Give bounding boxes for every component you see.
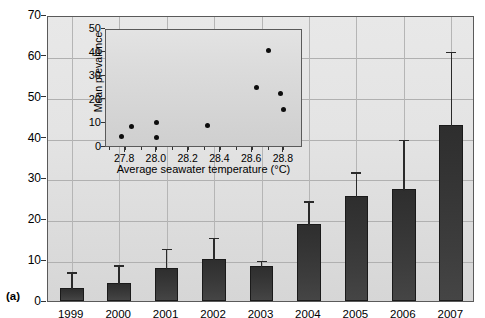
inset-y-tick-label: 10 <box>79 116 101 128</box>
vertical-gridline <box>72 17 73 301</box>
error-bar-cap <box>304 201 314 203</box>
error-bar-cap <box>446 52 456 54</box>
scatter-point <box>129 124 134 129</box>
inset-x-minor-tick-mark <box>283 147 284 150</box>
scatter-point <box>278 91 283 96</box>
scatter-point <box>154 135 159 140</box>
x-tick-label: 2005 <box>331 308 379 318</box>
bar <box>297 224 321 301</box>
inset-x-minor-tick-mark <box>125 147 126 150</box>
bar <box>392 189 416 301</box>
x-tick-label: 2001 <box>142 308 190 318</box>
gridline <box>48 180 473 181</box>
bar <box>250 266 274 302</box>
x-tick-label: 2003 <box>237 308 285 318</box>
error-bar-cap <box>162 249 172 251</box>
error-bar-cap <box>257 261 267 263</box>
inset-x-axis-label: Average seawater temperature (°C) <box>105 163 302 175</box>
error-bar <box>213 238 215 261</box>
x-tick-label: 2004 <box>284 308 332 318</box>
y-tick-mark <box>41 15 46 16</box>
figure-panel-a: Coral disease prevalence (%) 01020304050… <box>0 0 485 318</box>
y-tick-label: 30 <box>1 171 41 185</box>
error-bar <box>403 140 405 192</box>
inset-x-minor-tick-mark <box>156 147 157 150</box>
inset-x-minor-tick-mark <box>141 147 142 150</box>
inset-x-minor-tick-mark <box>268 147 269 150</box>
error-bar <box>166 249 168 270</box>
inset-y-tick-label: 20 <box>79 93 101 105</box>
error-bar-cap <box>114 265 124 267</box>
y-tick-label: 50 <box>1 90 41 104</box>
scatter-point <box>154 120 159 125</box>
y-tick-mark <box>41 301 46 302</box>
y-tick-label: 20 <box>1 212 41 226</box>
y-tick-mark <box>41 96 46 97</box>
inset-y-tick-label: 30 <box>79 69 101 81</box>
x-tick-label: 2006 <box>379 308 427 318</box>
error-bar <box>451 52 453 127</box>
bar <box>107 283 131 301</box>
error-bar <box>308 201 310 226</box>
y-tick-label: 40 <box>1 131 41 145</box>
inset-x-minor-tick-mark <box>188 147 189 150</box>
inset-x-minor-tick-mark <box>109 147 110 150</box>
inset-scatter-plot <box>105 29 302 147</box>
x-tick-label: 1999 <box>47 308 95 318</box>
y-tick-mark <box>41 55 46 56</box>
scatter-point <box>266 48 271 53</box>
y-tick-mark <box>41 219 46 220</box>
error-bar <box>356 172 358 197</box>
scatter-point <box>205 123 210 128</box>
bar <box>155 268 179 301</box>
bar <box>439 125 463 302</box>
error-bar-cap <box>351 172 361 174</box>
y-tick-mark <box>41 260 46 261</box>
inset-x-minor-tick-mark <box>220 147 221 150</box>
scatter-point <box>254 85 259 90</box>
error-bar-cap <box>67 272 77 274</box>
inset-x-minor-tick-mark <box>172 147 173 150</box>
scatter-point <box>119 134 124 139</box>
inset-x-minor-tick-mark <box>204 147 205 150</box>
y-tick-label: 70 <box>1 8 41 22</box>
error-bar <box>118 265 120 285</box>
inset-y-tick-label: 0 <box>79 140 101 152</box>
y-tick-mark <box>41 137 46 138</box>
x-tick-label: 2000 <box>94 308 142 318</box>
inset-y-tick-label: 40 <box>79 46 101 58</box>
y-tick-label: 10 <box>1 253 41 267</box>
error-bar <box>71 272 73 290</box>
panel-label: (a) <box>6 290 20 302</box>
x-tick-label: 2007 <box>426 308 474 318</box>
inset-y-tick-label: 50 <box>79 22 101 34</box>
bar <box>202 259 226 302</box>
scatter-point <box>281 107 286 112</box>
x-tick-label: 2002 <box>189 308 237 318</box>
error-bar-cap <box>399 140 409 142</box>
y-tick-mark <box>41 178 46 179</box>
bar <box>345 196 369 301</box>
error-bar-cap <box>209 238 219 240</box>
y-tick-label: 60 <box>1 49 41 63</box>
inset-x-minor-tick-mark <box>236 147 237 150</box>
inset-x-minor-tick-mark <box>252 147 253 150</box>
